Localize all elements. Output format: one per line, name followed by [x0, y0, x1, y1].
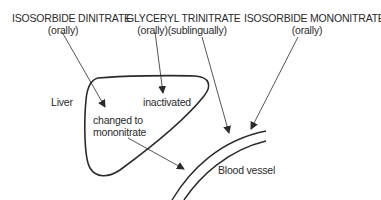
inactivated-label: inactivated [143, 96, 191, 108]
drug-name: GLYCERYL TRINITRATE [126, 12, 238, 24]
drug-name: ISOSORBIDE MONONITRATE [244, 12, 370, 24]
drug-route: (orally) [244, 24, 370, 36]
nitrate-metabolism-diagram: ISOSORBIDE DINITRATE (orally) GLYCERYL T… [0, 0, 381, 200]
liver-label: Liver [51, 96, 73, 108]
drug-label-glyceryl-trinitrate: GLYCERYL TRINITRATE (orally)(sublinguall… [126, 12, 238, 36]
arrow-mononitrate-to-blood [251, 37, 298, 129]
drug-route: (orally) [12, 24, 114, 36]
arrow-gtn-to-blood [202, 37, 229, 133]
drug-name: ISOSORBIDE DINITRATE [12, 12, 114, 24]
arrow-gtn-to-inactivated [155, 32, 163, 93]
drug-label-isosorbide-dinitrate: ISOSORBIDE DINITRATE (orally) [12, 12, 114, 36]
blood-vessel-label: Blood vessel [218, 164, 275, 176]
drug-label-isosorbide-mononitrate: ISOSORBIDE MONONITRATE (orally) [244, 12, 370, 36]
changed-to-mononitrate-label: changed to mononitrate [93, 114, 146, 138]
drug-route: (orally)(sublingually) [126, 24, 238, 36]
